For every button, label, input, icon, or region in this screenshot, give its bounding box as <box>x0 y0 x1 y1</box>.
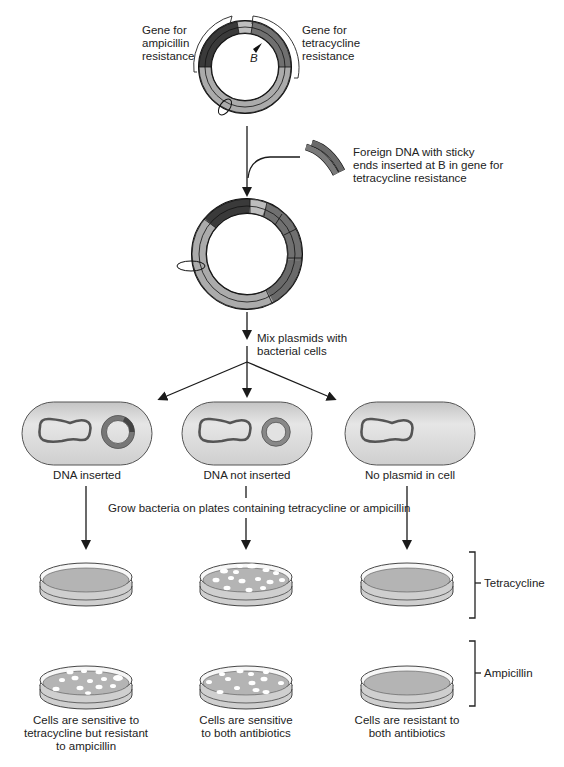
label-line: bacterial cells <box>257 345 347 358</box>
label-line: Cells are sensitive to <box>16 714 156 727</box>
label-line: tetracycline resistance <box>353 172 503 185</box>
foreign-dna-fragment <box>306 143 342 174</box>
recombinant-plasmid <box>177 199 302 309</box>
plasmid-cloning-diagram: Gene for ampicillin resistance Gene for … <box>0 0 564 767</box>
label-line: Mix plasmids with <box>257 332 347 345</box>
label-line: resistance <box>142 50 194 63</box>
plate-amp-no-plasmid <box>361 666 453 709</box>
label-line: tetracycline <box>302 37 360 50</box>
label-line: Gene for <box>142 24 194 37</box>
plate-tet-dna-inserted <box>40 563 132 606</box>
foreign-dna-label: Foreign DNA with sticky ends inserted at… <box>353 146 503 185</box>
tetracycline-row-bracket <box>469 552 481 618</box>
tetracycline-gene-label: Gene for tetracycline resistance <box>302 24 360 63</box>
cell-dna-not-inserted <box>182 402 312 465</box>
plate-amp-dna-not-inserted <box>200 666 292 709</box>
outcome-no-plasmid: Cells are resistant to both antibiotics <box>337 714 477 740</box>
cell-label-dna-not-inserted: DNA not inserted <box>182 469 312 482</box>
label-line: Gene for <box>302 24 360 37</box>
plate-tet-dna-not-inserted <box>200 563 292 606</box>
label-line: to both antibiotics <box>176 727 316 740</box>
label-line: both antibiotics <box>337 727 477 740</box>
label-line: Foreign DNA with sticky <box>353 146 503 159</box>
cell-dna-inserted <box>22 402 152 465</box>
label-line: Cells are sensitive <box>176 714 316 727</box>
ampicillin-gene-label: Gene for ampicillin resistance <box>142 24 194 63</box>
cell-label-no-plasmid: No plasmid in cell <box>345 469 475 482</box>
diagram-graphics <box>0 0 564 767</box>
plate-amp-dna-inserted <box>40 666 132 709</box>
ampicillin-row-bracket <box>469 641 481 706</box>
label-line: to ampicillin <box>16 740 156 753</box>
label-line: ends inserted at B in gene for <box>353 159 503 172</box>
outcome-dna-inserted: Cells are sensitive to tetracycline but … <box>16 714 156 753</box>
mix-step-label: Mix plasmids with bacterial cells <box>257 332 347 358</box>
plate-tet-no-plasmid <box>361 563 453 606</box>
original-plasmid <box>194 16 299 117</box>
label-line: tetracycline but resistant <box>16 727 156 740</box>
cell-no-plasmid <box>345 402 475 465</box>
plasmid-icon <box>264 420 288 444</box>
tetracycline-row-label: Tetracycline <box>484 577 545 590</box>
label-line: resistance <box>302 50 360 63</box>
site-b-label: B <box>250 52 258 65</box>
outcome-dna-not-inserted: Cells are sensitive to both antibiotics <box>176 714 316 740</box>
grow-step-label: Grow bacteria on plates containing tetra… <box>108 502 410 515</box>
label-line: ampicillin <box>142 37 194 50</box>
label-line: Cells are resistant to <box>337 714 477 727</box>
cell-label-dna-inserted: DNA inserted <box>22 469 152 482</box>
ampicillin-row-label: Ampicillin <box>484 667 533 680</box>
